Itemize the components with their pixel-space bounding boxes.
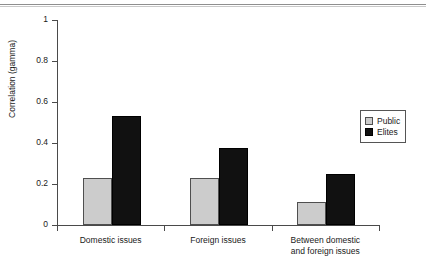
y-axis-tick [52,102,57,103]
y-axis-tick [52,143,57,144]
x-axis-category-label: Between domestic and foreign issues [265,235,385,257]
legend-item-public: Public [365,116,400,126]
legend-label-elites: Elites [377,127,398,137]
y-axis-label: Correlation (gamma) [7,19,17,139]
bar-public-2 [190,178,219,225]
y-axis-tick [52,61,57,62]
figure-top-rule [0,4,426,5]
figure-container: Correlation (gamma) 00.20.40.60.81 Domes… [0,0,426,268]
y-axis-tick-label: 1 [0,14,48,24]
elites-swatch-icon [365,128,373,136]
x-axis-line [57,225,380,226]
x-axis-tick [57,226,58,231]
y-axis-tick-label: 0.8 [0,55,48,65]
x-axis-tick [164,226,165,231]
public-swatch-icon [365,117,373,125]
y-axis-tick [52,184,57,185]
x-axis-category-label: Foreign issues [158,235,278,246]
y-axis-tick-label: 0.6 [0,96,48,106]
bars-layer [58,20,380,225]
legend-label-public: Public [377,116,400,126]
bar-elites-1 [112,116,141,225]
chart-legend: Public Elites [360,110,406,143]
figure-top-rule-secondary [0,6,426,7]
y-axis-tick-label: 0.2 [0,178,48,188]
y-axis-tick [52,20,57,21]
legend-item-elites: Elites [365,127,400,137]
x-axis-tick [272,226,273,231]
y-axis-tick-label: 0.4 [0,137,48,147]
x-axis-tick [379,226,380,231]
bar-elites-3 [326,174,355,225]
y-axis-tick-label: 0 [0,219,48,229]
bar-elites-2 [219,148,248,225]
bar-public-1 [83,178,112,225]
bar-public-3 [297,202,326,225]
x-axis-category-label: Domestic issues [51,235,171,246]
